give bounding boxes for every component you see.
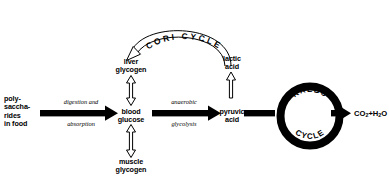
output-co-text: CO — [354, 109, 365, 118]
arrow-digestion — [40, 106, 118, 121]
output-plus-h-text: +H — [368, 109, 378, 118]
node-pyruvic-acid: pyruvic acid — [212, 108, 252, 125]
diagram-canvas: CORI CYCLE KREBS CYCLE — [0, 0, 389, 182]
edge-label-digestion-line2: absorption — [48, 120, 114, 127]
node-polysaccharides-in-food: poly- saccha- rides in food — [4, 95, 44, 129]
node-liver-glycogen: liver glycogen — [110, 58, 152, 75]
arrow-pyruvic-to-lactic — [227, 72, 236, 98]
node-blood-glucose: blood glucose — [110, 108, 152, 125]
edge-label-glycolysis-line1: anaerobic — [155, 98, 213, 105]
arrow-muscle-glycogen-exchange — [127, 125, 136, 158]
arrow-liver-glycogen-exchange — [127, 76, 136, 106]
output-co2-subscript: 2 — [365, 112, 368, 118]
node-lactic-acid: lactic acid — [212, 55, 252, 72]
metabolism-diagram: CORI CYCLE KREBS CYCLE poly- saccha- rid… — [0, 0, 389, 182]
node-muscle-glycogen: muscle glycogen — [108, 158, 154, 175]
edge-label-digestion-line1: digestion and — [48, 98, 114, 105]
node-output-co2-h2o: CO2+H2O — [354, 109, 387, 118]
edge-label-glycolysis-line2: glycolysis — [155, 120, 213, 127]
output-h2-subscript: 2 — [378, 112, 381, 118]
arrow-glycolysis — [152, 106, 221, 121]
output-o-text: O — [381, 109, 387, 118]
